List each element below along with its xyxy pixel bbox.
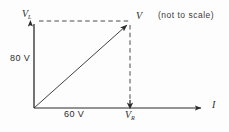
not-to-scale-note: (not to scale) (158, 11, 214, 20)
resultant-phasor-arrow (34, 25, 127, 108)
resultant-label-v: V (136, 11, 142, 21)
vr-label-subscript: R (131, 115, 135, 121)
x-axis-label-i: I (212, 100, 215, 110)
x-component-label-vr: VR (125, 110, 135, 120)
horizontal-magnitude-label: 60 V (64, 110, 84, 119)
vl-label-subscript: L (28, 14, 31, 20)
vertical-magnitude-label: 80 V (10, 54, 30, 63)
y-axis-label-vl: VL (22, 9, 31, 19)
phasor-diagram-figure: VL V VR I 80 V 60 V (not to scale) (0, 0, 229, 132)
